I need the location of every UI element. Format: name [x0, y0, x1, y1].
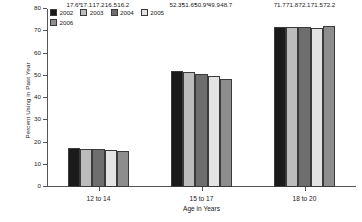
y-axis-tick-label: 70: [34, 26, 41, 33]
bar-2002-18-to-20[interactable]: [274, 27, 286, 187]
y-axis-tick-label: 10: [34, 160, 41, 167]
bar-value-label: 16.2: [117, 1, 129, 8]
y-axis-tick-label: 30: [34, 115, 41, 122]
plot-area: 80706050403020100 17.6*17.117.216.516.25…: [47, 9, 356, 187]
bar-column[interactable]: 50.9*: [195, 9, 207, 187]
bar-2005-15-to-17[interactable]: [208, 76, 220, 187]
bar-column[interactable]: 72.2: [323, 9, 335, 187]
bar-group: 71.771.872.171.572.2: [274, 9, 336, 187]
bar-value-label: 17.2: [92, 1, 104, 8]
bar-value-label: 16.5: [105, 1, 117, 8]
x-axis-tick: [305, 187, 306, 191]
bar-column[interactable]: 71.7: [274, 9, 286, 187]
bar-value-label: 72.1: [298, 1, 310, 8]
bar-value-label: 71.5: [311, 1, 323, 8]
x-axis-category-label: 12 to 14: [59, 195, 139, 202]
bar-column[interactable]: 17.1: [80, 9, 92, 187]
bar-2002-12-to-14[interactable]: [68, 148, 80, 187]
bar-value-label: 71.8: [286, 1, 298, 8]
bar-2006-12-to-14[interactable]: [117, 151, 129, 187]
bar-column[interactable]: 51.6*: [183, 9, 195, 187]
bar-column[interactable]: 71.8: [286, 9, 298, 187]
x-axis-category-label: 15 to 17: [162, 195, 242, 202]
y-axis-tick-label: 80: [34, 4, 41, 11]
bar-group-bars: 52.3*51.6*50.9*49.948.7: [171, 9, 233, 187]
bar-value-label: 17.6*: [66, 1, 80, 8]
y-axis-tick-label: 50: [34, 71, 41, 78]
bar-group-bars: 17.6*17.117.216.516.2: [68, 9, 130, 187]
bar-2006-15-to-17[interactable]: [220, 79, 232, 187]
bar-value-label: 71.7: [274, 1, 286, 8]
bar-2004-18-to-20[interactable]: [298, 27, 310, 187]
bar-column[interactable]: 48.7: [220, 9, 232, 187]
bar-group: 17.6*17.117.216.516.2: [68, 9, 130, 187]
bar-column[interactable]: 17.6*: [68, 9, 80, 187]
bar-2004-12-to-14[interactable]: [92, 149, 104, 187]
bar-2002-15-to-17[interactable]: [171, 71, 183, 187]
bar-2006-18-to-20[interactable]: [323, 26, 335, 187]
bar-2003-15-to-17[interactable]: [183, 72, 195, 187]
bar-column[interactable]: 49.9: [208, 9, 220, 187]
bar-2005-18-to-20[interactable]: [311, 28, 323, 187]
bar-group: 52.3*51.6*50.9*49.948.7: [171, 9, 233, 187]
y-axis-tick-label: 0: [38, 182, 41, 189]
bar-column[interactable]: 17.2: [92, 9, 104, 187]
bar-2004-15-to-17[interactable]: [195, 74, 207, 187]
bar-column[interactable]: 71.5: [311, 9, 323, 187]
bar-column[interactable]: 52.3*: [171, 9, 183, 187]
y-axis-tick-label: 20: [34, 138, 41, 145]
bar-group-bars: 71.771.872.171.572.2: [274, 9, 336, 187]
bar-column[interactable]: 16.5: [105, 9, 117, 187]
bar-value-label: 50.9*: [194, 1, 208, 8]
bar-column[interactable]: 16.2: [117, 9, 129, 187]
bar-groups: 17.6*17.117.216.516.252.3*51.6*50.9*49.9…: [47, 9, 356, 187]
bar-value-label: 49.9: [208, 1, 220, 8]
bar-2005-12-to-14[interactable]: [105, 150, 117, 187]
bar-2003-12-to-14[interactable]: [80, 149, 92, 187]
y-axis-title: Percent Using in Past Year: [24, 16, 31, 186]
x-axis-tick: [99, 187, 100, 191]
x-axis-title: Age in Years: [47, 205, 356, 212]
bar-chart: Percent Using in Past Year 2002200320042…: [0, 0, 362, 222]
bar-value-label: 48.7: [220, 1, 232, 8]
bar-column[interactable]: 72.1: [298, 9, 310, 187]
bar-value-label: 17.1: [80, 1, 92, 8]
y-axis-tick-label: 40: [34, 93, 41, 100]
y-axis-tick-label: 60: [34, 49, 41, 56]
x-axis-tick: [202, 187, 203, 191]
bar-2003-18-to-20[interactable]: [286, 27, 298, 187]
x-axis-category-label: 18 to 20: [265, 195, 345, 202]
bar-value-label: 72.2: [323, 1, 335, 8]
